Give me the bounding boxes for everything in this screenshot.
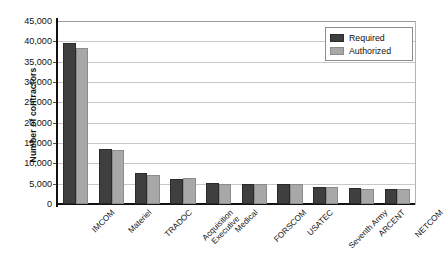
- x-axis-category-label: Materiel: [126, 208, 153, 235]
- plot-right-border: [415, 21, 416, 205]
- bar-authorized: [112, 150, 125, 205]
- bar-authorized: [147, 175, 160, 204]
- bar-group: [242, 21, 267, 204]
- legend-label-required: Required: [349, 33, 385, 43]
- bar-group: [63, 21, 88, 204]
- bar-authorized: [183, 178, 196, 204]
- bar-required: [385, 189, 398, 205]
- y-axis-tick-label: 45,000: [4, 16, 52, 26]
- x-axis-category-label-line: IMCOM: [90, 208, 116, 234]
- bar-required: [313, 187, 326, 204]
- x-axis-category-labels: IMCOMMaterielTRADOCAcquisitionExecutiveM…: [0, 204, 438, 277]
- x-axis-category-label-line: FORSCOM: [273, 208, 309, 244]
- bar-authorized: [397, 189, 410, 205]
- x-axis-category-label: USATEC: [306, 208, 336, 238]
- y-axis-title: Number of contractors: [28, 35, 38, 195]
- bar-required: [63, 43, 76, 204]
- x-axis-category-label: TRADOC: [163, 208, 194, 239]
- legend-item-required: Required: [330, 31, 408, 44]
- bar-authorized: [290, 184, 303, 204]
- bar-group: [135, 21, 160, 204]
- x-axis-category-label: NETCOM: [414, 208, 445, 240]
- legend-swatch-authorized-icon: [330, 47, 344, 55]
- bar-authorized: [76, 48, 89, 204]
- bar-authorized: [326, 187, 339, 204]
- bar-authorized: [219, 184, 232, 204]
- bar-authorized: [361, 189, 374, 205]
- legend-item-authorized: Authorized: [330, 44, 408, 57]
- bar-group: [170, 21, 195, 204]
- x-axis-category-label-line: NETCOM: [414, 208, 445, 239]
- bar-required: [242, 184, 255, 204]
- bar-required: [170, 179, 183, 204]
- bar-required: [99, 149, 112, 204]
- bar-required: [206, 183, 219, 204]
- x-axis-category-label: FORSCOM: [273, 208, 309, 244]
- bar-required: [349, 188, 362, 204]
- bar-group: [206, 21, 231, 204]
- x-axis-category-label-line: Materiel: [126, 208, 153, 235]
- bar-required: [277, 184, 290, 204]
- x-axis-category-label-line: TRADOC: [163, 208, 194, 239]
- x-axis-category-label-line: USATEC: [306, 208, 335, 237]
- bar-group: [99, 21, 124, 204]
- chart-legend: Required Authorized: [325, 27, 413, 61]
- x-axis-category-label: IMCOM: [90, 208, 117, 235]
- legend-swatch-required-icon: [330, 34, 344, 42]
- bar-authorized: [254, 184, 267, 204]
- legend-label-authorized: Authorized: [349, 46, 391, 56]
- bar-required: [135, 173, 148, 204]
- bar-group: [277, 21, 302, 204]
